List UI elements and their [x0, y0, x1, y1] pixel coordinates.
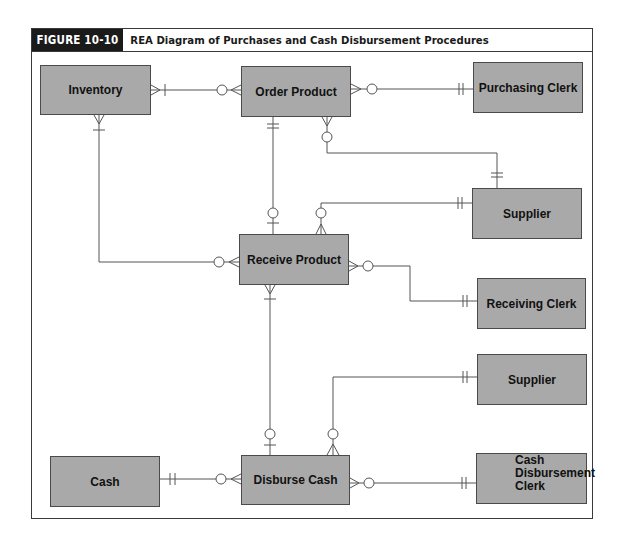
rel-order-product-supplier — [322, 117, 503, 188]
entity-order-product: Order Product — [241, 66, 351, 117]
rel-order-product-purchasing-clerk — [351, 83, 473, 95]
entity-receive-product: Receive Product — [239, 234, 349, 285]
entity-cash-disbursement-clerk: Cash Disbursement Clerk — [476, 453, 587, 504]
entity-supplier-bottom: Supplier — [477, 354, 587, 405]
rel-disburse-cash-clerk — [350, 477, 476, 489]
rel-cash-disburse-cash — [160, 473, 241, 485]
rel-receive-product-receiving-clerk — [349, 261, 477, 307]
rel-supplier-disburse-cash — [327, 371, 477, 455]
clerk-line-3: Clerk — [515, 480, 545, 493]
entity-inventory: Inventory — [40, 65, 151, 115]
rel-inventory-receive-product — [93, 115, 239, 267]
entity-receiving-clerk: Receiving Clerk — [477, 278, 586, 329]
rel-inventory-order-product — [151, 84, 241, 96]
rel-supplier-receive-product — [316, 197, 472, 234]
rel-receive-product-disburse-cash — [264, 285, 276, 455]
entity-supplier-top: Supplier — [472, 188, 582, 239]
entity-disburse-cash: Disburse Cash — [241, 455, 350, 505]
rel-order-product-receive-product — [267, 117, 279, 234]
entity-purchasing-clerk: Purchasing Clerk — [473, 62, 583, 113]
entity-cash: Cash — [50, 456, 160, 507]
